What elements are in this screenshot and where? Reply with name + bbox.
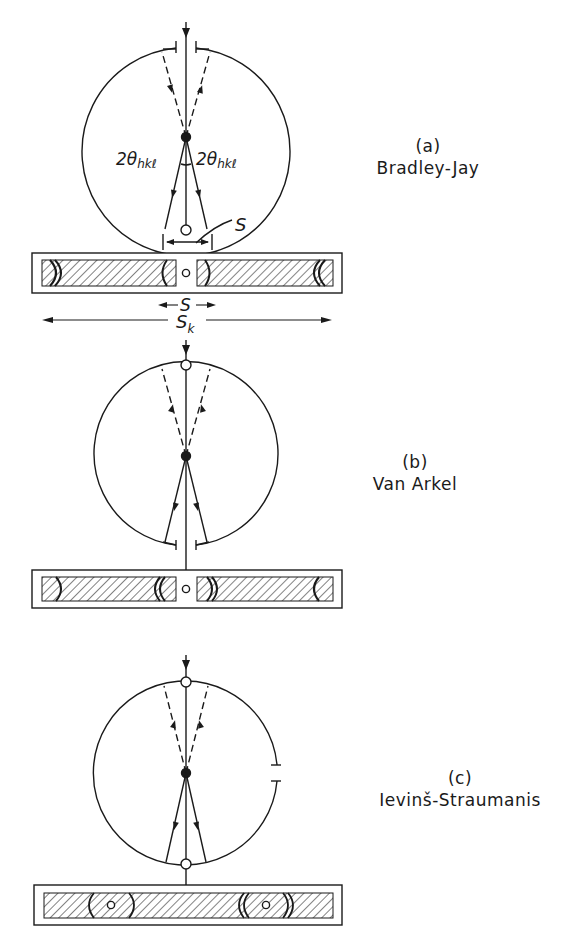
panel-c-label: (c) Ievinš-Straumanis: [365, 768, 555, 810]
angle-label-left: 2θhkℓ: [116, 149, 157, 171]
panel-c-film-strip: [34, 885, 342, 925]
panel-a-film-strip: [32, 253, 342, 293]
panel-a-tag: (a): [363, 136, 493, 156]
film-label-sk: Sk: [176, 311, 195, 336]
panel-c-tag: (c): [365, 768, 555, 788]
panel-c-name: Ievinš-Straumanis: [365, 790, 555, 810]
panel-b-camera: [94, 340, 278, 570]
panel-b-film-strip: [32, 570, 342, 608]
panel-a-label: (a) Bradley-Jay: [363, 136, 493, 178]
panel-c-camera: [93, 655, 281, 885]
arc-label-s: S: [235, 214, 246, 235]
panel-b-label: (b) Van Arkel: [355, 452, 475, 494]
panel-a-camera: [82, 22, 290, 256]
panel-a-name: Bradley-Jay: [363, 158, 493, 178]
angle-label-right: 2θhkℓ: [196, 149, 237, 171]
panel-b-name: Van Arkel: [355, 474, 475, 494]
panel-b-tag: (b): [355, 452, 475, 472]
